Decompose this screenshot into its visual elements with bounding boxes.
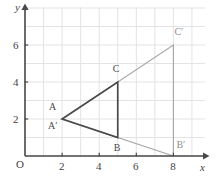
x-tick-label: 6 (133, 161, 139, 172)
y-axis-label: y (15, 2, 20, 13)
x-tick-label: 8 (170, 161, 176, 172)
y-tick-label: 2 (13, 114, 19, 125)
x-tick-label: 4 (96, 161, 102, 172)
x-axis-arrowhead (203, 152, 210, 159)
y-axis-arrowhead (21, 4, 28, 11)
triangle-abc (62, 82, 118, 138)
label-A: A (49, 102, 56, 112)
x-tick-label: 2 (59, 161, 65, 172)
y-tick-label: 6 (13, 40, 19, 51)
preimage-triangle-outline (62, 82, 118, 138)
coordinate-plane-figure: 2468246AA′BCB′C′ O x y (0, 0, 217, 184)
label-Bp: B′ (176, 140, 185, 150)
x-axis-label: x (200, 162, 205, 173)
label-Ap: A′ (48, 121, 57, 131)
origin-label: O (16, 159, 24, 170)
plot-canvas (0, 0, 217, 184)
label-Cp: C′ (174, 27, 183, 37)
label-C: C (113, 64, 120, 74)
label-B: B (114, 143, 121, 153)
y-tick-label: 4 (13, 77, 19, 88)
